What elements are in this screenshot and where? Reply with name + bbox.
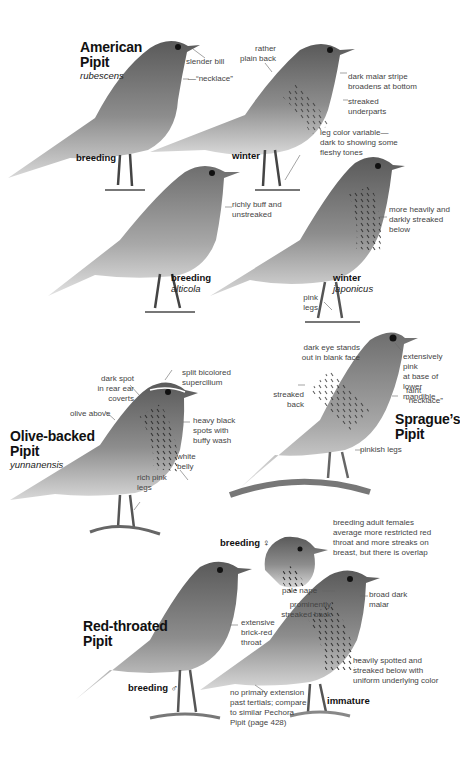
plumage-label-breeding-female: breeding ♀ [220, 537, 270, 548]
note-streaked-back: streaked back [268, 390, 304, 410]
note-extensive-brick-red-throat: extensive brick-red throat [241, 618, 275, 648]
plumage-label-winter-japonicus: winter [333, 272, 361, 283]
species-name-olive-backed-pipit: Olive-backed Pipit [10, 429, 95, 459]
note-olive-above: olive above [70, 409, 110, 419]
note-no-primary-extension: no primary extension past tertials; comp… [230, 688, 306, 728]
note-streaked-underparts: streaked underparts [348, 97, 386, 117]
plumage-label-breeding: breeding [76, 152, 116, 163]
species-name-line2: Pipit [10, 444, 95, 459]
plumage-label-immature: immature [327, 695, 370, 706]
species-name-line1: Sprague’s [395, 412, 460, 427]
note-heavily-spotted: heavily spotted and streaked below with … [353, 656, 438, 686]
note-split-supercilium: split bicolored supercilium [182, 368, 231, 388]
note-prominently-streaked-back: prominently streaked back [255, 600, 331, 620]
note-broad-dark-malar: broad dark malar [369, 590, 407, 610]
note-white-belly: white belly [177, 452, 196, 472]
species-name-spragues-pipit: Sprague’s Pipit [395, 412, 460, 442]
note-leg-color-variable: leg color variable— dark to showing some… [320, 128, 398, 158]
note-rich-pink-legs: rich pink legs [137, 473, 167, 493]
note-more-heavily-streaked: more heavily and darkly streaked below [389, 205, 450, 235]
species-name-red-throated-pipit: Red-throated Pipit [83, 619, 168, 649]
note-breeding-adult-females: breeding adult females average more rest… [333, 518, 431, 558]
plumage-label-breeding-alticola: breeding [171, 272, 211, 283]
note-slender-bill: slender bill [186, 57, 224, 67]
species-name-american-pipit: American Pipit [80, 40, 142, 70]
note-rather-plain-back: rather plain back [236, 44, 276, 64]
bird-american-alticola [48, 166, 240, 312]
subspecies-yunnanensis: yunnanensis [10, 459, 63, 470]
note-dark-spot-ear-coverts: dark spot in rear ear coverts [86, 374, 134, 404]
note-pinkish-legs: pinkish legs [360, 445, 402, 455]
subspecies-japonicus: japonicus [333, 283, 373, 294]
species-name-line2: Pipit [83, 634, 168, 649]
plumage-label-breeding-male: breeding ♂ [128, 682, 178, 693]
note-necklace: —“necklace” [188, 74, 233, 84]
note-pale-nape: pale nape [282, 586, 317, 596]
plumage-label-winter: winter [232, 150, 260, 161]
species-name-line2: Pipit [395, 427, 460, 442]
species-name-line1: Olive-backed [10, 429, 95, 444]
species-name-line2: Pipit [80, 55, 142, 70]
note-faint-necklace: faint “necklace” [406, 386, 443, 406]
bird-red-throated-female-head [265, 537, 328, 590]
note-dark-eye-blank-face: dark eye stands out in blank face [288, 343, 360, 363]
note-dark-malar-stripe: dark malar stripe broadens at bottom [348, 72, 417, 92]
note-richly-buff: richly buff and unstreaked [232, 200, 282, 220]
subspecies-alticola: alticola [171, 283, 201, 294]
note-heavy-black-spots: heavy black spots with buffy wash [193, 416, 235, 446]
subspecies-rubescens: rubescens [80, 70, 124, 81]
species-name-line1: American [80, 40, 142, 55]
note-pink-legs: pink legs [282, 293, 318, 313]
species-name-line1: Red-throated [83, 619, 168, 634]
